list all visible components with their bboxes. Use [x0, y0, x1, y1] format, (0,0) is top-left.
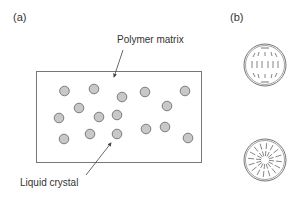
droplet — [74, 103, 84, 113]
droplet — [94, 112, 104, 122]
droplet — [85, 129, 95, 139]
diagram-canvas — [0, 0, 302, 201]
droplet — [160, 122, 170, 132]
liquid-crystal-arrow — [86, 143, 111, 175]
radial-droplet — [244, 139, 286, 181]
droplet — [140, 87, 150, 97]
droplet — [54, 113, 64, 123]
droplet — [59, 134, 69, 144]
droplet — [141, 124, 151, 134]
droplet — [112, 110, 122, 120]
droplet — [117, 92, 127, 102]
droplet — [112, 129, 122, 139]
droplet — [162, 101, 172, 111]
droplet — [60, 86, 70, 96]
bipolar-droplet — [244, 44, 286, 86]
droplet — [180, 86, 190, 96]
liquid-crystal-droplets — [54, 84, 193, 144]
polymer-matrix-arrow — [114, 50, 123, 77]
droplet — [89, 84, 99, 94]
droplet — [183, 133, 193, 143]
